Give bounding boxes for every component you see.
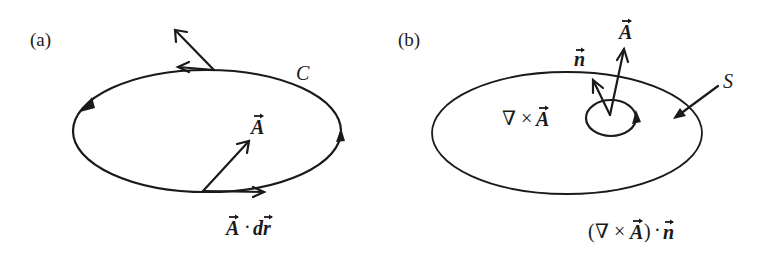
svg-text:×: × xyxy=(614,220,625,242)
vector-a-arrow xyxy=(203,141,249,191)
dot-product-label: A · dr xyxy=(224,215,273,240)
loop-direction-arrowhead xyxy=(632,110,641,124)
curl-label: ∇ × A xyxy=(502,106,549,131)
vector-arrow-top xyxy=(175,30,214,70)
tangent-dr-arrow xyxy=(203,187,264,197)
flux-label: ( ∇ × A ) · n xyxy=(588,219,674,244)
svg-text:): ) xyxy=(644,220,651,243)
vector-a-label: A xyxy=(249,114,264,139)
panel-a: (a) C A xyxy=(30,29,345,239)
vector-a-label-b: A xyxy=(617,19,632,44)
svg-text:A: A xyxy=(628,221,643,243)
svg-text:A: A xyxy=(534,108,549,130)
surface-label-s: S xyxy=(723,70,733,92)
svg-text:(: ( xyxy=(588,220,595,243)
panel-a-label: (a) xyxy=(30,29,51,51)
svg-text:∇: ∇ xyxy=(595,220,609,242)
svg-text:·: · xyxy=(244,216,251,238)
normal-n-arrow xyxy=(593,80,610,115)
vector-a-arrow-b xyxy=(610,49,628,115)
svg-text:A: A xyxy=(249,116,264,138)
normal-n-label: n xyxy=(574,48,585,71)
stokes-theorem-diagram: (a) C A xyxy=(0,0,776,255)
svg-text:n: n xyxy=(663,221,674,243)
panel-b: (b) S ∇ × A n xyxy=(398,19,733,244)
panel-b-label: (b) xyxy=(398,29,420,51)
svg-text:∇: ∇ xyxy=(502,107,516,129)
svg-text:·: · xyxy=(654,219,661,241)
curve-direction-arrowhead-right xyxy=(336,128,345,142)
closed-curve-c xyxy=(73,70,341,192)
svg-text:dr: dr xyxy=(253,217,271,239)
svg-text:A: A xyxy=(224,217,239,239)
svg-text:×: × xyxy=(521,107,532,129)
surface-s-boundary xyxy=(432,72,702,194)
svg-text:n: n xyxy=(574,48,585,70)
svg-text:A: A xyxy=(617,21,632,43)
curve-label-c: C xyxy=(296,62,310,84)
